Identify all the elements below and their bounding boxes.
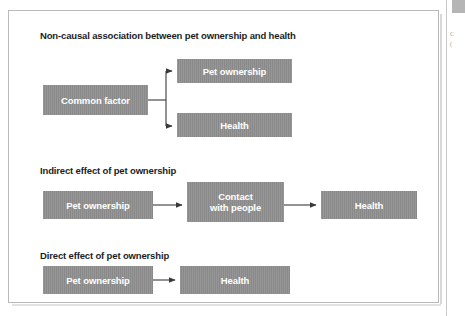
node-contact-line-1: Contact xyxy=(218,191,253,202)
margin-text-fragment-2: ( xyxy=(450,41,452,47)
margin-text-fragment-1: C xyxy=(450,31,454,37)
node-health-1: Health xyxy=(177,113,292,137)
margin-bar xyxy=(452,0,465,13)
node-contact-line-2: with people xyxy=(210,202,261,213)
frame-shadow-bottom xyxy=(12,304,441,306)
section-heading-indirect-effect: Indirect effect of pet ownership xyxy=(40,165,176,176)
node-pet-ownership-3: Pet ownership xyxy=(43,266,153,294)
node-pet-ownership-2: Pet ownership xyxy=(43,191,153,219)
node-health-2: Health xyxy=(321,191,417,219)
section-heading-non-causal: Non-causal association between pet owner… xyxy=(40,30,296,41)
node-pet-ownership-1: Pet ownership xyxy=(177,59,292,83)
node-common-factor: Common factor xyxy=(43,85,148,115)
figure-page: C ( Non-causal association between pet o… xyxy=(0,0,465,316)
page-margin-sliver: C ( xyxy=(446,0,465,316)
section-heading-direct-effect: Direct effect of pet ownership xyxy=(40,250,169,261)
node-contact-with-people: Contact with people xyxy=(187,182,284,222)
frame-shadow-right xyxy=(440,14,442,304)
node-health-3: Health xyxy=(180,266,290,294)
node-contact-label: Contact with people xyxy=(210,191,261,213)
